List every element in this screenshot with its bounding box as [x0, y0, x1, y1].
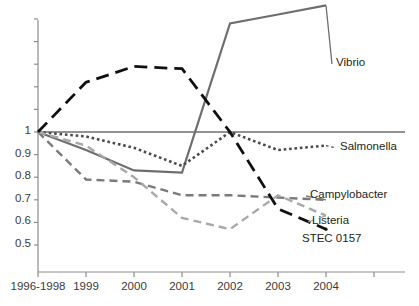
y-tick-label: 0.7: [0, 192, 31, 204]
y-tick-label: 0.8: [0, 169, 31, 181]
y-tick-label: 0.9: [0, 147, 31, 159]
x-tick-label: 2004: [294, 280, 358, 292]
chart-series-group: [38, 5, 326, 229]
series-label-campylobacter: Campylobacter: [310, 188, 387, 200]
series-line-listeria: [38, 132, 326, 229]
chart-container: 210.90.80.70.60.5 1996-19981999200020012…: [0, 0, 419, 306]
series-label-salmonella: Salmonella: [340, 140, 397, 152]
series-label-vibrio: Vibrio: [336, 56, 365, 68]
y-tick-label: 0.6: [0, 214, 31, 226]
series-line-campylobacter: [38, 132, 326, 200]
series-label-stec-0157: STEC 0157: [302, 232, 361, 244]
y-tick-label: 1: [0, 124, 31, 136]
series-label-listeria: Listeria: [312, 214, 349, 226]
chart-plot-area: [0, 0, 419, 306]
y-tick-label: 0.5: [0, 237, 31, 249]
